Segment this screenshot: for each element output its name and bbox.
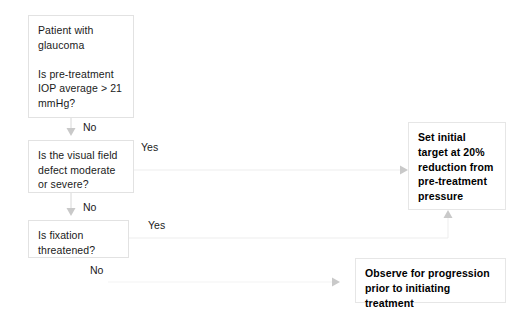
edge-label-no-visual-field-to-fixation: No: [83, 201, 96, 214]
node-set-initial-target-action[interactable]: Set initial target at 20% reduction from…: [408, 122, 506, 210]
node-patient-glaucoma-question[interactable]: Patient with glaucoma Is pre-treatment I…: [28, 15, 134, 118]
edge-label-no-fixation-to-observe: No: [90, 264, 103, 277]
node-visual-field-defect-question[interactable]: Is the visual field defect moderate or s…: [28, 140, 134, 193]
node-fixation-threatened-question[interactable]: Is fixation threatened?: [28, 220, 129, 258]
edge-label-no-start-to-visual-field: No: [83, 121, 96, 134]
node-observe-progression-action[interactable]: Observe for progression prior to initiat…: [355, 258, 506, 303]
edge-label-yes-fixation-to-target: Yes: [148, 219, 165, 232]
edge-label-yes-visual-field-to-target: Yes: [141, 141, 158, 154]
flowchart-canvas: Patient with glaucoma Is pre-treatment I…: [0, 0, 531, 329]
